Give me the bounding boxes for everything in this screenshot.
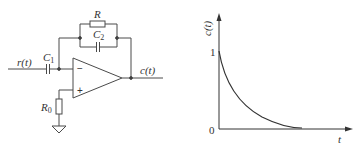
circuit-diagram xyxy=(8,21,163,133)
capacitor-c2-icon xyxy=(97,42,100,52)
decay-curve xyxy=(219,51,302,128)
figure: r(t) C1 R C2 c(t) R0 − + c(t) 1 0 t xyxy=(0,0,360,149)
resistor-r0-icon xyxy=(56,99,62,114)
output-label: c(t) xyxy=(140,64,156,77)
input-label: r(t) xyxy=(17,56,32,69)
y-tick-one: 1 xyxy=(210,46,216,58)
r0-label: R0 xyxy=(40,101,52,115)
c1-label: C1 xyxy=(43,51,54,65)
y-axis-label: c(t) xyxy=(201,20,214,36)
response-graph: c(t) 1 0 t xyxy=(201,13,353,145)
capacitor-c1-icon xyxy=(47,64,50,74)
resistor-r-icon xyxy=(90,21,105,27)
y-axis-arrow-icon xyxy=(217,13,222,21)
noninverting-sign: + xyxy=(77,85,83,96)
inverting-sign: − xyxy=(77,63,83,74)
r-label: R xyxy=(93,8,101,20)
x-axis-arrow-icon xyxy=(345,127,353,132)
origin-label: 0 xyxy=(209,124,215,136)
c2-label: C2 xyxy=(93,28,104,42)
ground-icon xyxy=(52,126,66,133)
x-axis-label: t xyxy=(338,133,342,145)
